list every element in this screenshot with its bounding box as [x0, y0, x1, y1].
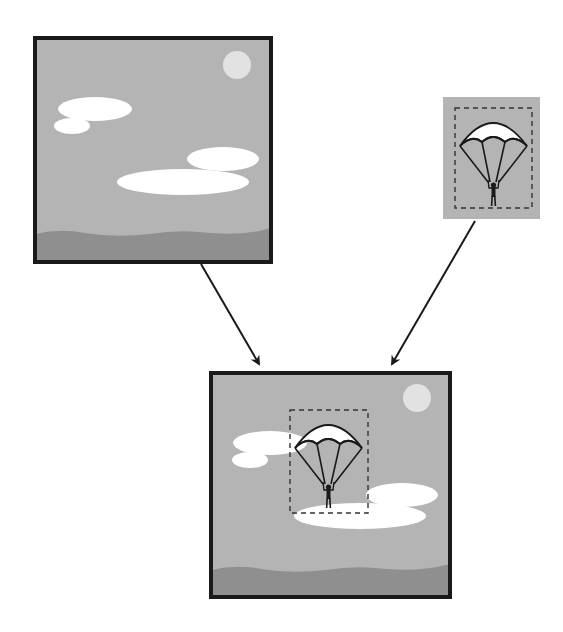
compositing-diagram: [0, 0, 563, 632]
background-scene-image: [35, 38, 271, 262]
composite-result-image: [211, 373, 450, 597]
foreground-object-image: [443, 97, 540, 219]
arrow-background-to-composite: [201, 264, 259, 364]
arrow-foreground-to-composite: [392, 221, 475, 364]
sun-icon: [403, 384, 431, 412]
sun-icon: [223, 51, 251, 79]
